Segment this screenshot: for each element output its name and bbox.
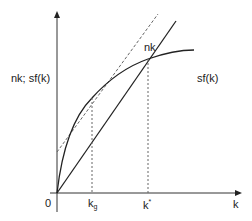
sfk-curve xyxy=(57,50,194,193)
curve-label: sf(k) xyxy=(197,73,218,84)
y-axis-label: nk; sf(k) xyxy=(11,73,50,84)
tick-kstar: k* xyxy=(143,198,151,211)
tick-kg-sub: g xyxy=(94,203,98,210)
y-axis-arrow-icon xyxy=(54,11,60,18)
diagram-canvas xyxy=(0,0,252,221)
origin-label: 0 xyxy=(45,198,51,209)
x-axis-arrow-icon xyxy=(235,190,242,196)
line-label: nk xyxy=(144,42,156,53)
tick-kstar-sup: * xyxy=(149,198,152,205)
tick-kg: kg xyxy=(88,198,97,210)
nk-line xyxy=(57,21,176,193)
x-axis-label: k xyxy=(233,199,239,210)
